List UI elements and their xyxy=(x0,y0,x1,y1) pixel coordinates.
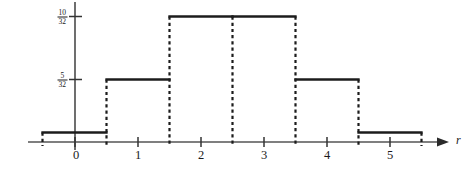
y-tick-label-5-32-denominator: 32 xyxy=(58,80,68,88)
probability-histogram-figure: 10 32 5 32 0 1 2 3 4 5 r xyxy=(0,0,473,169)
y-tick-label-10-32: 10 32 xyxy=(58,8,68,25)
x-axis-variable-label: r xyxy=(456,133,461,148)
y-tick-label-5-32: 5 32 xyxy=(58,71,68,88)
x-tick-label-3: 3 xyxy=(261,148,267,163)
x-tick-label-0: 0 xyxy=(73,148,79,163)
y-tick-label-5-32-numerator: 5 xyxy=(59,71,65,79)
y-axis-group xyxy=(69,2,82,150)
x-tick-label-1: 1 xyxy=(135,148,141,163)
x-tick-label-2: 2 xyxy=(198,148,204,163)
x-tick-label-4: 4 xyxy=(324,148,330,163)
histogram-plot-svg xyxy=(0,0,473,169)
x-tick-label-5: 5 xyxy=(387,148,393,163)
x-axis-group xyxy=(28,138,449,147)
y-tick-label-10-32-numerator: 10 xyxy=(58,8,68,16)
x-axis-arrow-icon xyxy=(437,138,449,147)
histogram-bar-sides-group xyxy=(43,17,422,147)
y-tick-label-10-32-denominator: 32 xyxy=(58,17,68,25)
